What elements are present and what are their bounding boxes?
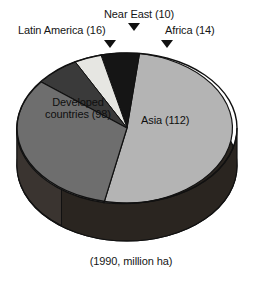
slice-label-asia: Asia (112) [141, 114, 221, 126]
chart-caption: (1990, million ha) [0, 255, 262, 267]
pie-chart-figure: Near East (10) Latin America (16) Africa… [0, 0, 262, 281]
callout-label-latin-america: Latin America (16) [18, 24, 105, 36]
callout-label-africa: Africa (14) [165, 24, 215, 36]
down-arrow-icon-near-east [128, 23, 140, 31]
pie-chart-graphic [0, 44, 262, 244]
slice-label-developed-countries: Developed countries (98) [32, 96, 124, 120]
callout-label-near-east: Near East (10) [104, 8, 174, 20]
